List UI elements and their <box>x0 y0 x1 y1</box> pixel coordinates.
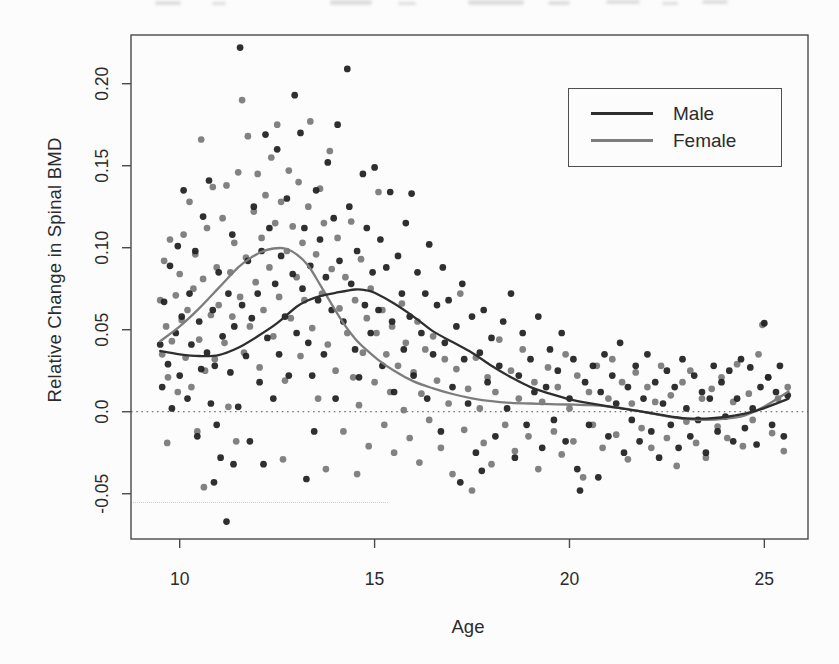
scan-artifact <box>133 502 388 503</box>
x-axis-ticks: 10152025 <box>170 539 774 589</box>
y-axis-title: Relative Change in Spinal BMD <box>44 70 66 470</box>
figure-canvas: 101520250.200.150.100.050.0-0.05 Relativ… <box>0 0 839 664</box>
x-tick-label: 20 <box>560 569 580 589</box>
y-tick-label: 0.10 <box>92 230 112 264</box>
legend: Male Female <box>568 88 782 167</box>
legend-label-female: Female <box>673 130 736 152</box>
legend-item-male: Male <box>569 100 781 127</box>
y-tick-label: 0.20 <box>92 66 112 100</box>
x-tick-label: 25 <box>755 569 774 589</box>
legend-label-male: Male <box>673 103 714 125</box>
y-tick-label: -0.05 <box>92 474 112 514</box>
x-axis-title: Age <box>368 616 568 638</box>
x-tick-label: 15 <box>365 569 384 589</box>
female-line-swatch <box>591 139 653 142</box>
y-axis-ticks: 0.200.150.100.050.0-0.05 <box>92 66 131 513</box>
male-line-swatch <box>591 112 653 115</box>
y-tick-label: 0.15 <box>92 149 112 183</box>
y-tick-label: 0.05 <box>92 313 112 347</box>
y-tick-label: 0.0 <box>92 399 112 424</box>
legend-item-female: Female <box>569 127 781 154</box>
smoother-female <box>160 248 788 420</box>
x-tick-label: 10 <box>170 569 190 589</box>
